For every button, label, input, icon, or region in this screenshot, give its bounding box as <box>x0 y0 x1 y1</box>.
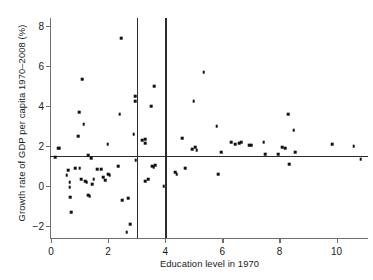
data-point <box>78 111 81 114</box>
y-tick-mark <box>46 226 51 227</box>
data-point <box>234 143 237 146</box>
y-axis-title: Growth rate of GDP per capita 1970–2008 … <box>14 8 30 238</box>
y-tick-mark <box>46 106 51 107</box>
data-point <box>91 183 94 186</box>
data-point <box>80 178 83 181</box>
data-point <box>288 163 291 166</box>
data-point <box>58 147 61 150</box>
data-point <box>287 113 290 116</box>
data-point <box>68 181 71 184</box>
x-axis-line <box>50 238 368 239</box>
x-axis-title: Education level in 1970 <box>51 258 368 269</box>
scatter-plot-figure: Growth rate of GDP per capita 1970–2008 … <box>0 0 373 280</box>
data-point <box>215 125 218 128</box>
y-axis-line <box>50 18 51 238</box>
data-point <box>230 141 233 144</box>
data-point <box>360 158 363 161</box>
data-point <box>96 168 99 171</box>
data-point <box>144 142 147 145</box>
data-point <box>240 141 243 144</box>
data-point <box>68 186 71 189</box>
data-point <box>121 199 124 202</box>
data-point <box>352 145 355 148</box>
data-point <box>264 153 267 156</box>
y-tick-label: 4 <box>38 101 44 112</box>
x-tick-mark <box>222 238 223 243</box>
data-point <box>284 147 287 150</box>
data-point <box>81 78 84 81</box>
data-point <box>125 231 128 234</box>
data-point <box>78 167 81 170</box>
x-tick-label: 4 <box>162 246 168 257</box>
x-tick-label: 2 <box>105 246 111 257</box>
data-point <box>90 157 93 160</box>
y-tick-label: 2 <box>38 141 44 152</box>
data-point <box>100 168 103 171</box>
data-point <box>118 113 121 116</box>
data-point <box>154 164 157 167</box>
y-tick-label: 8 <box>38 21 44 32</box>
data-point <box>195 149 198 152</box>
data-point <box>331 143 334 146</box>
data-point <box>153 85 156 88</box>
vertical-reference-line <box>137 18 138 238</box>
x-tick-mark <box>279 238 280 243</box>
data-point <box>150 105 153 108</box>
data-point <box>163 185 166 188</box>
x-tick-mark <box>108 238 109 243</box>
x-tick-mark <box>51 238 52 243</box>
data-point <box>250 144 253 147</box>
y-tick-label: 0 <box>38 181 44 192</box>
data-point <box>129 223 132 226</box>
plot-area: −202468 0246810 <box>51 18 368 238</box>
x-tick-mark <box>337 238 338 243</box>
data-point <box>106 143 109 146</box>
data-point <box>181 137 184 140</box>
data-point <box>108 174 111 177</box>
data-point <box>134 95 137 98</box>
data-point <box>77 135 80 138</box>
data-point <box>83 123 86 126</box>
y-tick-mark <box>46 26 51 27</box>
x-tick-label: 6 <box>220 246 226 257</box>
y-tick-label: −2 <box>33 221 44 232</box>
data-point <box>134 100 137 103</box>
data-point <box>93 178 96 181</box>
data-point <box>277 153 280 156</box>
data-point <box>127 197 130 200</box>
data-point <box>120 37 123 40</box>
horizontal-reference-line <box>50 156 368 157</box>
vertical-reference-line <box>165 18 166 238</box>
data-point <box>192 100 195 103</box>
x-tick-label: 0 <box>48 246 54 257</box>
data-point <box>292 129 295 132</box>
data-point <box>67 169 70 172</box>
data-point <box>117 165 120 168</box>
data-point <box>65 174 68 177</box>
data-point <box>202 71 205 74</box>
data-point <box>69 196 72 199</box>
data-point <box>175 173 178 176</box>
data-point <box>133 133 136 136</box>
data-point <box>104 179 107 182</box>
data-point <box>184 167 187 170</box>
data-point <box>144 138 147 141</box>
x-tick-mark <box>165 238 166 243</box>
data-point <box>70 211 73 214</box>
data-point <box>147 178 150 181</box>
data-point <box>220 151 223 154</box>
data-point <box>74 167 77 170</box>
data-point <box>54 156 57 159</box>
x-tick-label: 8 <box>277 246 283 257</box>
y-tick-mark <box>46 146 51 147</box>
y-tick-label: 6 <box>38 61 44 72</box>
data-point <box>217 173 220 176</box>
y-tick-mark <box>46 66 51 67</box>
data-point <box>294 151 297 154</box>
x-tick-label: 10 <box>331 246 342 257</box>
data-point <box>262 141 265 144</box>
data-point <box>135 159 138 162</box>
y-tick-mark <box>46 186 51 187</box>
data-point <box>88 195 91 198</box>
data-point <box>85 181 88 184</box>
